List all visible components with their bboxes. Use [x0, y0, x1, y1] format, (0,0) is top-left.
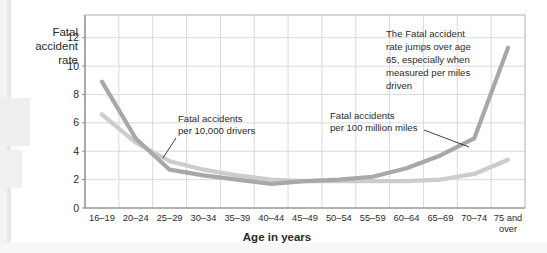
y-axis-tick-label: 2 — [73, 173, 79, 185]
x-axis-title: Age in years — [243, 231, 311, 243]
y-axis-tick-label: 8 — [73, 88, 79, 100]
x-axis-tick-label: 65–69 — [427, 213, 453, 223]
callout-jump-line3: 65, especially when — [386, 54, 470, 65]
x-axis-tick-label-continued: over — [499, 224, 517, 234]
x-axis-tick-label: 45–49 — [292, 213, 318, 223]
callout-miles-line1: Fatal accidents — [330, 110, 395, 121]
callout-miles-line2: per 100 million miles — [330, 122, 418, 133]
y-axis-title-line2: accident — [35, 40, 79, 52]
y-axis-tick-label: 4 — [73, 145, 79, 157]
callout-jump-line5: driven — [386, 80, 412, 91]
y-axis-title-line3: rate — [58, 54, 78, 66]
y-axis-tick-label: 0 — [73, 202, 79, 214]
x-axis-tick-label: 20–24 — [123, 213, 149, 223]
x-axis-tick-label: 16–19 — [89, 213, 115, 223]
x-axis-tick-label: 75 and — [494, 213, 522, 223]
x-axis-tick-label: 60–64 — [394, 213, 420, 223]
callout-drivers-line2: per 10,000 drivers — [178, 125, 256, 136]
callout-jump-line1: The Fatal accident — [386, 28, 465, 39]
callout-jump-line2: rate jumps over age — [386, 41, 471, 52]
x-axis-tick-label: 30–34 — [191, 213, 217, 223]
callout-jump-line4: measured per miles — [386, 67, 470, 78]
figure-container: 024681012 16–1920–2425–2930–3435–3940–44… — [0, 0, 547, 253]
y-axis-tick-label: 6 — [73, 116, 79, 128]
x-axis-tick-label: 40–44 — [258, 213, 284, 223]
line-chart: 024681012 16–1920–2425–2930–3435–3940–44… — [0, 0, 547, 253]
x-axis-tick-label: 55–59 — [360, 213, 386, 223]
x-axis-tick-label: 50–54 — [326, 213, 352, 223]
callout-drivers-line1: Fatal accidents — [178, 113, 243, 124]
x-axis-tick-label: 70–74 — [461, 213, 487, 223]
y-axis-title: Fatal accident rate — [35, 26, 79, 66]
x-axis-tick-label: 25–29 — [157, 213, 183, 223]
y-axis-title-line1: Fatal — [52, 26, 78, 38]
x-axis-tick-label: 35–39 — [224, 213, 250, 223]
